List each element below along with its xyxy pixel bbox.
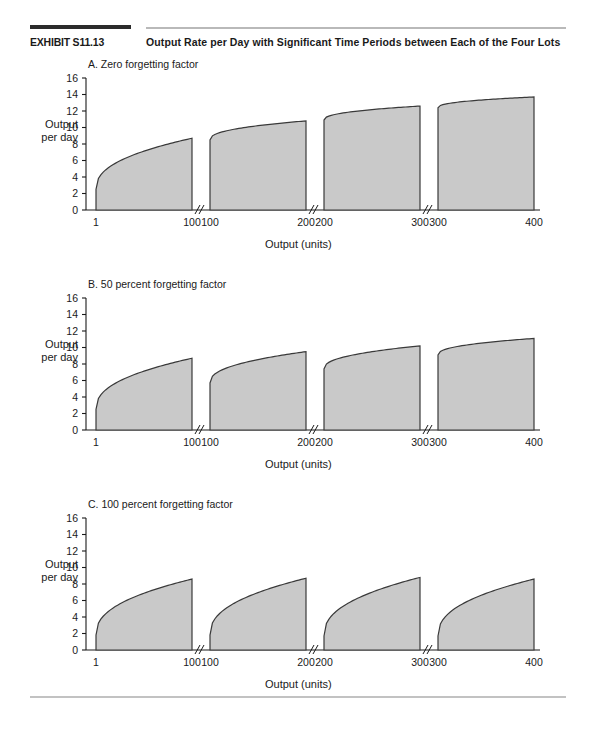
y-axis-label: Outputper day <box>20 558 78 584</box>
y-tick-label: 0 <box>72 424 78 436</box>
lot-area <box>96 358 192 430</box>
axis-break-mark <box>427 645 432 654</box>
x-axis-label: Output (units) <box>265 458 332 470</box>
y-axis-label: Outputper day <box>20 118 78 144</box>
y-tick-label: 6 <box>72 154 78 166</box>
lot-area <box>438 579 534 650</box>
x-tick-label: 200 <box>315 436 333 448</box>
y-tick-label: 12 <box>66 105 78 117</box>
y-axis-label-line1: Output <box>20 558 78 571</box>
x-tick-label: 1 <box>93 436 99 448</box>
x-tick-label: 1 <box>93 216 99 228</box>
y-axis-label-line1: Output <box>20 338 78 351</box>
x-tick-label: 1 <box>93 656 99 668</box>
y-tick-label: 16 <box>66 512 78 524</box>
x-tick-label: 100 <box>201 656 219 668</box>
lot-area <box>438 338 534 430</box>
y-tick-label: 16 <box>66 72 78 84</box>
y-tick-label: 6 <box>72 374 78 386</box>
exhibit-page: EXHIBIT S11.13 Output Rate per Day with … <box>0 0 596 730</box>
lot-area <box>210 352 306 430</box>
lot-area <box>324 577 420 650</box>
y-tick-label: 12 <box>66 325 78 337</box>
axis-break-mark <box>427 205 432 214</box>
x-tick-label: 300 <box>411 656 429 668</box>
lot-area <box>324 346 420 430</box>
y-tick-label: 12 <box>66 545 78 557</box>
exhibit-title: Output Rate per Day with Significant Tim… <box>146 36 560 48</box>
axis-break-mark <box>195 205 200 214</box>
axis-break-mark <box>423 425 428 434</box>
y-tick-label: 14 <box>66 528 78 540</box>
x-tick-label: 300 <box>411 436 429 448</box>
y-axis-label-line2: per day <box>20 131 78 144</box>
x-tick-label: 300 <box>429 656 447 668</box>
axis-break-mark <box>195 425 200 434</box>
axis-break-mark <box>199 645 204 654</box>
x-tick-label: 200 <box>315 216 333 228</box>
x-axis-label: Output (units) <box>265 238 332 250</box>
y-tick-label: 4 <box>72 171 78 183</box>
exhibit-rule-bottom <box>30 696 566 698</box>
y-axis-label-line2: per day <box>20 351 78 364</box>
x-tick-label: 300 <box>429 436 447 448</box>
axis-break-mark <box>309 205 314 214</box>
axis-break-mark <box>309 645 314 654</box>
y-tick-label: 4 <box>72 611 78 623</box>
y-axis-label: Outputper day <box>20 338 78 364</box>
y-tick-label: 4 <box>72 391 78 403</box>
chart-title: A. Zero forgetting factor <box>88 58 198 70</box>
y-tick-label: 2 <box>72 407 78 419</box>
y-tick-label: 16 <box>66 292 78 304</box>
y-axis-label-line1: Output <box>20 118 78 131</box>
x-tick-label: 100 <box>183 436 201 448</box>
lot-area <box>210 578 306 650</box>
y-axis-label-line2: per day <box>20 571 78 584</box>
x-tick-label: 400 <box>525 436 543 448</box>
chart-svg: 02468101214161100100200200300300400 <box>0 0 596 730</box>
x-tick-label: 100 <box>201 216 219 228</box>
exhibit-label: EXHIBIT S11.13 <box>30 36 104 48</box>
axis-break-mark <box>423 645 428 654</box>
x-tick-label: 100 <box>183 216 201 228</box>
x-tick-label: 300 <box>429 216 447 228</box>
x-tick-label: 400 <box>525 216 543 228</box>
chart-svg: 02468101214161100100200200300300400 <box>0 0 596 730</box>
y-tick-label: 2 <box>72 627 78 639</box>
lot-area <box>210 121 306 210</box>
exhibit-rule-light <box>146 27 566 29</box>
y-tick-label: 2 <box>72 187 78 199</box>
lot-area <box>438 97 534 210</box>
axis-break-mark <box>313 205 318 214</box>
axis-break-mark <box>309 425 314 434</box>
y-tick-label: 0 <box>72 204 78 216</box>
x-tick-label: 300 <box>411 216 429 228</box>
axis-break-mark <box>313 645 318 654</box>
x-tick-label: 200 <box>297 656 315 668</box>
x-tick-label: 100 <box>183 656 201 668</box>
exhibit-rule-dark <box>30 25 131 29</box>
x-axis-label: Output (units) <box>265 678 332 690</box>
lot-area <box>96 138 192 210</box>
axis-break-mark <box>199 425 204 434</box>
y-tick-label: 0 <box>72 644 78 656</box>
chart-title: C. 100 percent forgetting factor <box>88 498 233 510</box>
x-tick-label: 100 <box>201 436 219 448</box>
chart-title: B. 50 percent forgetting factor <box>88 278 226 290</box>
x-tick-label: 200 <box>297 216 315 228</box>
lot-area <box>96 579 192 650</box>
lot-area <box>324 106 420 210</box>
y-tick-label: 14 <box>66 308 78 320</box>
axis-break-mark <box>199 205 204 214</box>
axis-break-mark <box>313 425 318 434</box>
x-tick-label: 200 <box>297 436 315 448</box>
axis-break-mark <box>427 425 432 434</box>
y-tick-label: 14 <box>66 88 78 100</box>
chart-svg: 02468101214161100100200200300300400 <box>0 0 596 730</box>
x-tick-label: 400 <box>525 656 543 668</box>
x-tick-label: 200 <box>315 656 333 668</box>
axis-break-mark <box>423 205 428 214</box>
axis-break-mark <box>195 645 200 654</box>
y-tick-label: 6 <box>72 594 78 606</box>
